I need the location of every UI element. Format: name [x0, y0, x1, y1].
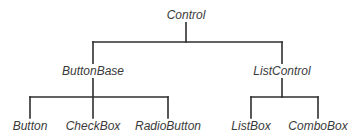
node-radiobutton: RadioButton [134, 119, 202, 133]
node-control: Control [166, 8, 207, 22]
node-listbox: ListBox [230, 119, 271, 133]
node-combobox: ComboBox [287, 119, 348, 133]
node-buttonbase: ButtonBase [61, 64, 125, 78]
node-button: Button [12, 119, 49, 133]
class-hierarchy-diagram: Control ButtonBase ListControl Button Ch… [0, 0, 355, 139]
node-listcontrol: ListControl [252, 64, 311, 78]
node-checkbox: CheckBox [65, 119, 122, 133]
